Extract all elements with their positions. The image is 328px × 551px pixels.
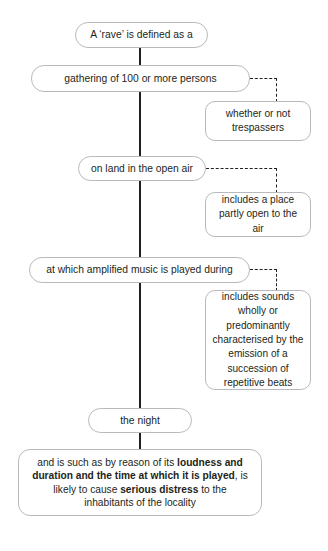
node-includes-sounds: includes sounds wholly or predominantly … xyxy=(205,290,311,390)
connector-amplified-to-night xyxy=(139,282,141,409)
node-amplified-music-label: at which amplified music is played durin… xyxy=(36,263,243,277)
node-the-night: the night xyxy=(88,408,192,433)
node-final-statement: and is such as by reason of its loudness… xyxy=(18,449,262,516)
dashed-connector-gathering-horizontal xyxy=(250,78,277,79)
node-final-statement-label: and is such as by reason of its loudness… xyxy=(29,456,251,510)
dashed-connector-gathering-vertical xyxy=(276,78,277,102)
connector-night-to-final xyxy=(139,432,141,450)
connector-onland-to-amplified xyxy=(139,180,141,258)
node-on-land-open-air: on land in the open air xyxy=(78,156,206,181)
node-rave-definition: A ‘rave’ is defined as a xyxy=(75,22,208,48)
node-includes-place-partly-open: includes a place partly open to the air xyxy=(205,192,311,237)
node-the-night-label: the night xyxy=(95,414,185,428)
dashed-connector-amplified-vertical xyxy=(276,269,277,291)
dashed-connector-onland-vertical xyxy=(276,168,277,193)
node-whether-or-not-trespassers-label: whether or not trespassers xyxy=(212,107,304,136)
node-gathering: gathering of 100 or more persons xyxy=(31,65,250,92)
flowchart-diagram: A ‘rave’ is defined as a gathering of 10… xyxy=(0,0,328,551)
node-includes-sounds-label: includes sounds wholly or predominantly … xyxy=(212,290,304,390)
connector-gathering-to-onland xyxy=(139,91,141,157)
node-amplified-music: at which amplified music is played durin… xyxy=(29,257,250,283)
connector-rave-to-gathering xyxy=(139,47,141,66)
dashed-connector-onland-horizontal xyxy=(206,168,277,169)
dashed-connector-amplified-horizontal xyxy=(250,269,277,270)
node-includes-place-partly-open-label: includes a place partly open to the air xyxy=(212,193,304,236)
node-gathering-label: gathering of 100 or more persons xyxy=(38,72,243,86)
node-whether-or-not-trespassers: whether or not trespassers xyxy=(205,101,311,141)
node-rave-definition-label: A ‘rave’ is defined as a xyxy=(82,28,201,42)
node-on-land-open-air-label: on land in the open air xyxy=(85,162,199,176)
